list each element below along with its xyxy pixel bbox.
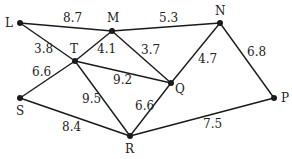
edge-weight-L-M: 8.7 [63,11,82,25]
node-T [72,58,78,64]
edges-group [20,23,274,136]
edge-weight-N-Q: 4.7 [198,52,217,66]
graph-svg: 8.75.33.84.13.79.24.76.86.69.56.68.47.5 … [0,0,292,159]
edge-weight-L-T: 3.8 [34,42,53,56]
edge-weight-N-P: 6.8 [247,45,266,59]
node-label-Q: Q [175,82,185,96]
edge-labels-group: 8.75.33.84.13.79.24.76.86.69.56.68.47.5 [32,11,266,134]
edge-weight-M-Q: 3.7 [141,43,160,57]
node-label-M: M [107,11,119,25]
edge-weight-T-Q: 9.2 [113,73,132,87]
node-P [271,95,277,101]
edge-weight-Q-R: 6.6 [135,99,154,113]
node-label-L: L [5,16,13,30]
edge-weight-S-R: 8.4 [62,120,81,134]
edge-weight-T-R: 9.5 [82,92,101,106]
node-Q [168,80,174,86]
edge-N-P [220,23,274,98]
node-label-N: N [215,4,226,18]
node-S [17,95,23,101]
edge-weight-R-P: 7.5 [203,117,222,131]
edge-weight-M-N: 5.3 [159,11,178,25]
node-label-T: T [70,42,78,56]
node-label-S: S [16,104,24,118]
edge-weight-T-M: 4.1 [97,42,116,56]
edge-weight-T-S: 6.6 [32,65,51,79]
node-label-P: P [281,91,289,105]
nodes-group [17,20,277,139]
node-N [217,20,223,26]
node-R [127,133,133,139]
node-M [109,28,115,34]
node-label-R: R [125,142,135,156]
node-L [17,20,23,26]
weighted-graph-diagram: 8.75.33.84.13.79.24.76.86.69.56.68.47.5 … [0,0,292,159]
